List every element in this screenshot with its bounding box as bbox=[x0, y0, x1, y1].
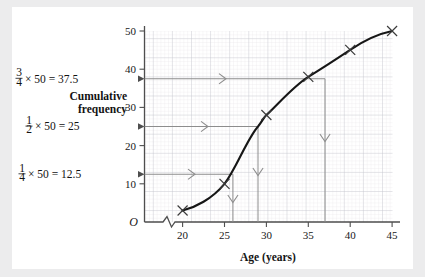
lq-label-text: × 50 = 12.5 bbox=[28, 168, 81, 180]
x-axis-title: Age (years) bbox=[240, 251, 296, 264]
x-tick-label-20: 20 bbox=[177, 229, 189, 241]
arrowhead-left-lq bbox=[138, 171, 145, 177]
median-fraction-denominator: 2 bbox=[26, 123, 32, 135]
cumulative-frequency-chart: 50 40 30 20 10 20 25 30 35 40 45 bbox=[0, 0, 425, 277]
x-tick-label-35: 35 bbox=[303, 229, 315, 241]
y-tick-label-10: 10 bbox=[125, 178, 137, 190]
origin-label: O bbox=[129, 215, 138, 229]
x-tick-label-40: 40 bbox=[345, 229, 357, 241]
y-axis-title-line2: frequency bbox=[78, 103, 127, 116]
y-axis-title: Cumulative frequency bbox=[70, 90, 128, 116]
x-tick-label-45: 45 bbox=[387, 229, 399, 241]
uq-fraction-denominator: 4 bbox=[16, 76, 22, 88]
arrowhead-left-median bbox=[138, 123, 145, 129]
y-axis-ticks: 50 40 30 20 10 bbox=[125, 25, 145, 190]
figure-page: 50 40 30 20 10 20 25 30 35 40 45 bbox=[0, 0, 425, 277]
median-label: 1 2 × 50 = 25 bbox=[26, 114, 80, 136]
x-tick-label-30: 30 bbox=[261, 229, 273, 241]
y-tick-label-20: 20 bbox=[125, 140, 137, 152]
upper-quartile-label: 3 4 × 50 = 37.5 bbox=[16, 66, 79, 88]
arrowhead-left-uq bbox=[138, 76, 145, 82]
uq-label-text: × 50 = 37.5 bbox=[25, 73, 78, 85]
x-axis-ticks: 20 25 30 35 40 45 bbox=[177, 222, 398, 241]
x-tick-label-25: 25 bbox=[219, 229, 231, 241]
lq-fraction-denominator: 4 bbox=[19, 171, 25, 183]
y-tick-label-40: 40 bbox=[125, 63, 137, 75]
y-axis-title-line1: Cumulative bbox=[70, 90, 128, 102]
median-label-text: × 50 = 25 bbox=[35, 120, 80, 132]
lower-quartile-label: 1 4 × 50 = 12.5 bbox=[19, 162, 82, 184]
y-tick-label-50: 50 bbox=[125, 25, 137, 37]
